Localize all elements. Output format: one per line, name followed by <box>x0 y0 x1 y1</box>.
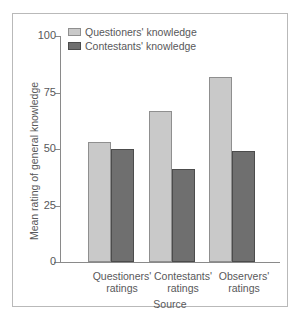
y-tick-label-0: 0 <box>50 255 56 267</box>
y-tick-label-75: 75 <box>44 86 56 98</box>
y-axis-line <box>60 36 61 263</box>
bar-contestants-ratings-questioners-knowledge <box>149 111 172 262</box>
x-category-label-2-line-1: ratings <box>198 282 290 294</box>
y-axis-title: Mean rating of general knowledge <box>27 14 41 308</box>
bar-contestants-ratings-contestants-knowledge <box>172 169 195 262</box>
bar-questioners-ratings-questioners-knowledge <box>88 142 111 262</box>
bar-observers-ratings-questioners-knowledge <box>209 77 232 262</box>
y-axis-title-text: Mean rating of general knowledge <box>28 82 40 240</box>
plot-area: 0 25 50 75 100 Questioners' rating <box>60 36 280 262</box>
bar-observers-ratings-contestants-knowledge <box>232 151 255 262</box>
x-axis-line <box>54 262 280 263</box>
y-tick-label-50: 50 <box>44 142 56 154</box>
y-tick-label-100: 100 <box>38 29 56 41</box>
x-category-label-2-line-0: Observers' <box>198 270 290 282</box>
x-axis-title: Source <box>60 298 280 310</box>
chart-figure: Mean rating of general knowledge Questio… <box>12 13 288 307</box>
bar-questioners-ratings-contestants-knowledge <box>111 149 134 262</box>
legend-swatch-icon-questioners <box>68 28 81 36</box>
y-tick-label-25: 25 <box>44 199 56 211</box>
x-category-label-2: Observers' ratings <box>198 270 290 294</box>
